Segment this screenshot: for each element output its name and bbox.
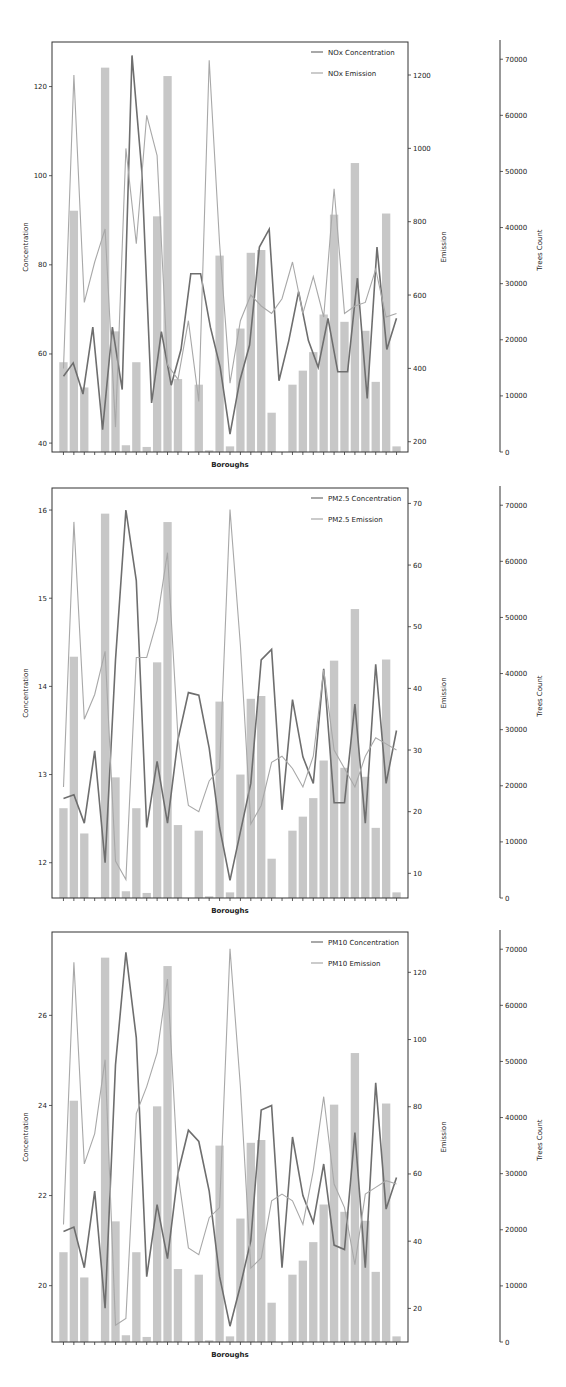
trees-bar [153,216,161,452]
trees-bar [174,825,182,898]
trees-bar [215,1146,223,1342]
y-axis-label: Concentration [22,222,30,272]
trees-count-bars [59,958,400,1342]
trees-bar [340,322,348,452]
trees-bar [101,958,109,1342]
trees-bar [267,413,275,452]
trees-bar [143,447,151,452]
trees-bar [309,1242,317,1342]
trees-bar [122,891,130,898]
y-axis-label: Concentration [22,668,30,718]
y3-tick-label: 50000 [505,614,527,622]
y3-tick-label: 60000 [505,558,527,566]
trees-bar [309,352,317,452]
y3-tick-label: 30000 [505,726,527,734]
trees-bar [267,1303,275,1342]
legend-label: PM2.5 Emission [328,516,383,524]
legend-label: PM10 Emission [328,960,381,968]
y3-tick-label: 70000 [505,56,527,64]
trees-bar [70,211,78,452]
trees-bar [80,387,88,452]
legend: PM2.5 ConcentrationPM2.5 Emission [311,495,401,524]
y3-tick-label: 40000 [505,1114,527,1122]
y2-tick-label: 40 [413,685,422,693]
trees-bar [70,1101,78,1342]
trees-bar [236,775,244,898]
trees-bar [340,1212,348,1342]
y3-tick-label: 50000 [505,168,527,176]
y3-tick-label: 0 [505,1339,509,1347]
pm10-chart: Boroughs20222426Concentration20406080100… [0,910,566,1360]
trees-count-bars [59,514,400,898]
y3-tick-label: 30000 [505,1170,527,1178]
y2-tick-label: 70 [413,500,422,508]
trees-bar [80,1277,88,1342]
trees-bar [101,68,109,452]
legend: NOx ConcentrationNOx Emission [311,49,395,78]
y3-tick-label: 70000 [505,502,527,510]
legend-label: PM10 Concentration [328,939,399,947]
trees-bar [351,609,359,898]
trees-bar [132,362,140,452]
y2-tick-label: 600 [413,292,426,300]
chart-svg: Boroughs1213141516Concentration102030405… [0,466,566,916]
legend-label: PM2.5 Concentration [328,495,401,503]
trees-bar [257,696,265,898]
x-axis-label: Boroughs [211,1351,249,1359]
trees-bar [174,1269,182,1342]
trees-bar [392,892,400,898]
y2-tick-label: 20 [413,808,422,816]
y-tick-label: 120 [34,83,47,91]
y2-tick-label: 800 [413,218,426,226]
trees-bar [320,1205,328,1342]
trees-bar [143,893,151,898]
y-tick-label: 80 [38,261,47,269]
y-tick-label: 40 [38,440,47,448]
trees-bar [288,831,296,898]
trees-bar [143,1337,151,1342]
trees-bar [309,798,317,898]
y2-tick-label: 80 [413,1103,422,1111]
trees-bar [372,828,380,898]
y3-tick-label: 60000 [505,112,527,120]
trees-bar [163,76,171,452]
y2-tick-label: 1000 [413,145,431,153]
y-tick-label: 100 [34,172,47,180]
trees-bar [340,768,348,898]
trees-bar [226,446,234,452]
y2-tick-label: 200 [413,438,426,446]
y2-tick-label: 120 [413,969,426,977]
y-tick-label: 13 [38,771,47,779]
y3-tick-label: 50000 [505,1058,527,1066]
trees-bar [122,1335,130,1342]
trees-bar [382,214,390,452]
trees-bar [195,831,203,898]
trees-bar [351,1053,359,1342]
y2-tick-label: 10 [413,870,422,878]
y3-axis-label: Trees Count [536,1119,544,1162]
trees-count-bars [59,68,400,452]
nox-chart: Boroughs406080100120Concentration2004006… [0,20,566,470]
y2-tick-label: 40 [413,1238,422,1246]
y3-tick-label: 20000 [505,1226,527,1234]
y-tick-label: 24 [38,1102,47,1110]
trees-bar [70,657,78,898]
y3-axis-label: Trees Count [536,229,544,272]
y2-tick-label: 400 [413,365,426,373]
trees-bar [267,859,275,898]
trees-bar [320,761,328,898]
y2-axis-label: Emission [440,677,448,708]
y2-tick-label: 60 [413,1170,422,1178]
trees-bar [288,385,296,452]
trees-bar [80,833,88,898]
trees-bar [122,445,130,452]
y3-tick-label: 70000 [505,946,527,954]
y2-tick-label: 60 [413,562,422,570]
y3-tick-label: 10000 [505,1282,527,1290]
y3-tick-label: 40000 [505,224,527,232]
trees-bar [132,1252,140,1342]
chart-svg: Boroughs20222426Concentration20406080100… [0,910,566,1360]
y-tick-label: 60 [38,350,47,358]
trees-bar [163,966,171,1342]
y-tick-label: 20 [38,1282,47,1290]
